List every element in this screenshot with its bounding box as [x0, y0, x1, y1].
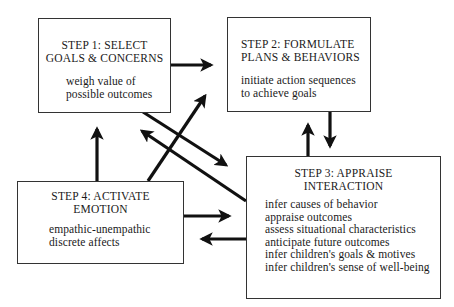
step4-box: STEP 4: ACTIVATE EMOTION empathic-unempa… [17, 181, 184, 264]
step1-title: STEP 1: SELECT GOALS & CONCERNS [39, 39, 170, 65]
step3-box: STEP 3: APPRAISE INTERACTION infer cause… [246, 156, 441, 299]
step1-description: weigh value of possible outcomes [66, 75, 152, 100]
step1-box: STEP 1: SELECT GOALS & CONCERNS weigh va… [38, 18, 171, 113]
step4-title: STEP 4: ACTIVATE EMOTION [18, 190, 183, 216]
step3-description: infer causes of behavior appraise outcom… [265, 198, 430, 273]
step4-description: empathic-unempathic discrete affects [49, 223, 151, 248]
step2-description: initiate action sequences to achieve goa… [241, 74, 356, 99]
step2-title: STEP 2: FORMULATE PLANS & BEHAVIORS [241, 38, 360, 64]
step2-box: STEP 2: FORMULATE PLANS & BEHAVIORS init… [227, 17, 371, 112]
step3-title: STEP 3: APPRAISE INTERACTION [247, 167, 440, 193]
